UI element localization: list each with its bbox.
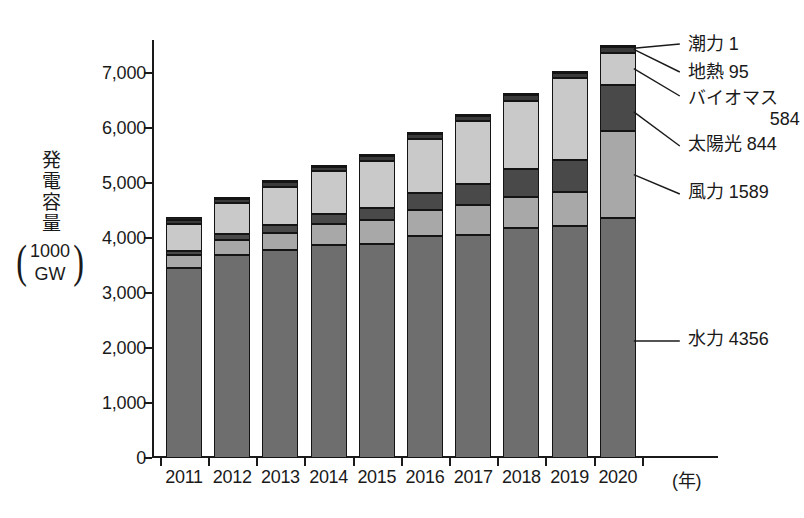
bar-segment-水力: [552, 226, 588, 458]
bar-segment-風力: [214, 240, 250, 255]
bar-segment-潮力: [311, 165, 347, 167]
x-axis-unit-label: (年): [672, 466, 701, 492]
bar-2020: [600, 47, 636, 458]
x-tick-mark: [353, 458, 355, 466]
bar-segment-太陽光: [503, 169, 539, 197]
bar-segment-地熱: [311, 167, 347, 172]
bar-segment-地熱: [359, 156, 395, 161]
bar-segment-地熱: [262, 182, 298, 186]
bar-segment-風力: [600, 131, 636, 218]
x-tick-mark: [160, 458, 162, 466]
bar-segment-風力: [311, 224, 347, 244]
bar-segment-水力: [503, 228, 539, 458]
x-tick-mark: [449, 458, 451, 466]
bar-segment-潮力: [262, 180, 298, 182]
bar-segment-水力: [262, 250, 298, 458]
x-tick-label-2015: 2015: [357, 467, 396, 492]
x-tick-mark: [256, 458, 258, 466]
callout-biomass-value: 584: [688, 109, 800, 130]
y-tick-label: 1,000: [102, 393, 146, 414]
bar-segment-バイオマス: [214, 203, 250, 234]
y-tick-label: 7,000: [102, 63, 146, 84]
bar-segment-潮力: [455, 114, 491, 116]
bar-segment-潮力: [166, 217, 202, 219]
bar-segment-地熱: [503, 95, 539, 100]
x-tick-label-2020: 2020: [598, 467, 637, 492]
paren-close: ): [73, 248, 84, 277]
bar-segment-風力: [359, 220, 395, 243]
bar-segment-風力: [262, 233, 298, 250]
x-tick-mark: [545, 458, 547, 466]
bar-segment-太陽光: [407, 193, 443, 210]
y-axis-title: 発電容量 ( 1000 GW ): [18, 150, 82, 285]
bar-segment-バイオマス: [311, 171, 347, 214]
x-tick-label-2016: 2016: [406, 467, 445, 492]
callout-tidal: 潮力 1: [688, 34, 739, 55]
bar-2014: [311, 167, 347, 458]
x-tick-label-2013: 2013: [261, 467, 300, 492]
bar-segment-風力: [552, 192, 588, 226]
bar-2012: [214, 199, 250, 458]
bar-segment-バイオマス: [455, 121, 491, 184]
bar-segment-太陽光: [166, 251, 202, 255]
bar-segment-太陽光: [262, 225, 298, 233]
bar-segment-潮力: [359, 154, 395, 156]
y-tick-label: 0: [136, 448, 146, 469]
bar-segment-地熱: [407, 134, 443, 139]
bar-segment-太陽光: [600, 85, 636, 131]
bar-2016: [407, 134, 443, 458]
callout-wind: 風力 1589: [688, 182, 769, 203]
bar-segment-バイオマス: [166, 224, 202, 252]
bar-segment-バイオマス: [262, 187, 298, 225]
bar-segment-バイオマス: [359, 161, 395, 208]
bar-segment-潮力: [214, 197, 250, 199]
bar-segment-潮力: [503, 93, 539, 95]
x-tick-label-2017: 2017: [454, 467, 493, 492]
y-tick-label: 3,000: [102, 283, 146, 304]
bar-segment-地熱: [455, 116, 491, 121]
bar-segment-風力: [503, 197, 539, 228]
y-axis-title-text: 発電容量: [40, 150, 60, 234]
bar-segment-バイオマス: [552, 78, 588, 160]
y-tick-label: 2,000: [102, 338, 146, 359]
x-tick-mark: [208, 458, 210, 466]
bar-segment-水力: [455, 235, 491, 458]
bar-segment-太陽光: [359, 208, 395, 221]
bar-2017: [455, 116, 491, 458]
x-tick-label-2014: 2014: [309, 467, 348, 492]
bar-segment-地熱: [600, 47, 636, 52]
callout-geothermal: 地熱 95: [688, 62, 749, 83]
bar-segment-風力: [455, 205, 491, 235]
y-axis-unit: ( 1000 GW ): [14, 240, 87, 285]
bar-segment-水力: [311, 245, 347, 458]
y-tick-label: 4,000: [102, 228, 146, 249]
bar-2018: [503, 95, 539, 458]
bar-segment-地熱: [552, 73, 588, 78]
plot-area: 01,0002,0003,0004,0005,0006,0007,000 201…: [152, 40, 718, 458]
callout-biomass: バイオマス 584: [688, 88, 804, 130]
bar-segment-潮力: [552, 71, 588, 73]
x-tick-mark: [642, 458, 644, 466]
callout-biomass-name: バイオマス: [688, 88, 778, 108]
bar-segment-太陽光: [552, 160, 588, 192]
x-tick-label-2018: 2018: [502, 467, 541, 492]
bar-segment-バイオマス: [407, 139, 443, 193]
y-axis-line: [152, 40, 154, 458]
bar-2019: [552, 73, 588, 458]
y-axis-unit-line1: 1000: [30, 240, 70, 263]
bar-segment-潮力: [600, 45, 636, 47]
bar-segment-太陽光: [455, 184, 491, 205]
bar-segment-地熱: [166, 220, 202, 224]
bar-segment-水力: [407, 236, 443, 458]
y-axis-unit-line2: GW: [35, 263, 66, 286]
x-tick-mark: [594, 458, 596, 466]
x-tick-mark: [497, 458, 499, 466]
x-tick-mark: [304, 458, 306, 466]
bar-segment-潮力: [407, 132, 443, 134]
bar-segment-水力: [214, 255, 250, 458]
y-tick-label: 6,000: [102, 118, 146, 139]
bar-segment-水力: [166, 268, 202, 458]
bar-2015: [359, 156, 395, 458]
callout-hydro: 水力 4356: [688, 329, 769, 350]
